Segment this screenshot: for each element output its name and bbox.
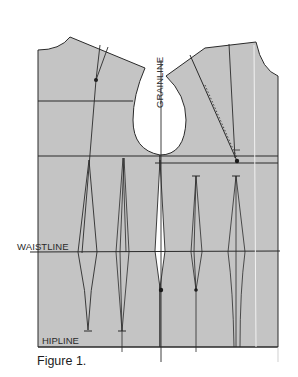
- figure-caption: Figure 1.: [37, 355, 86, 368]
- grainline-point: [159, 288, 163, 292]
- front-dart-point: [235, 159, 239, 163]
- grainline-label: GRAINLINE: [155, 57, 165, 108]
- hipline-label: HIPLINE: [42, 336, 79, 346]
- pattern-diagram: [0, 0, 298, 377]
- waistline-label: WAISTLINE: [17, 242, 69, 252]
- front-bodice-piece: [160, 42, 278, 347]
- back-bodice-piece: [38, 37, 160, 347]
